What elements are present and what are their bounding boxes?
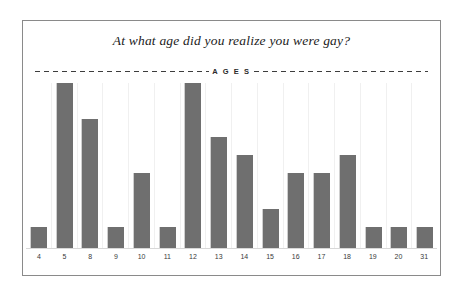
bar-31[interactable]: [416, 227, 433, 249]
bar-column[interactable]: [335, 83, 361, 249]
tick-label-13: 13: [206, 249, 232, 271]
bar-15[interactable]: [262, 209, 279, 249]
tick-label-16: 16: [283, 249, 309, 271]
bar-4[interactable]: [30, 227, 47, 249]
bar-column[interactable]: [103, 83, 129, 249]
tick-label-11: 11: [154, 249, 180, 271]
plot-area: 4589101112131415161718192031: [26, 83, 437, 273]
bar-column[interactable]: [412, 83, 437, 249]
tick-label-18: 18: [334, 249, 360, 271]
dashed-rule-left: [35, 71, 209, 72]
bar-13[interactable]: [210, 137, 227, 249]
bar-18[interactable]: [339, 155, 356, 249]
bar-11[interactable]: [159, 227, 176, 249]
bar-5[interactable]: [56, 83, 73, 249]
tick-label-19: 19: [360, 249, 386, 271]
bar-17[interactable]: [313, 173, 330, 249]
bars-container: [26, 83, 437, 249]
bar-column[interactable]: [155, 83, 181, 249]
tick-label-8: 8: [77, 249, 103, 271]
bar-19[interactable]: [365, 227, 382, 249]
tick-label-5: 5: [52, 249, 78, 271]
bar-chart-figure: At what age did you realize you were gay…: [22, 20, 441, 276]
bar-column[interactable]: [52, 83, 78, 249]
tick-label-4: 4: [26, 249, 52, 271]
tick-label-10: 10: [129, 249, 155, 271]
tick-label-31: 31: [411, 249, 437, 271]
bar-column[interactable]: [232, 83, 258, 249]
bar-column[interactable]: [129, 83, 155, 249]
bar-14[interactable]: [236, 155, 253, 249]
bar-column[interactable]: [78, 83, 104, 249]
bar-10[interactable]: [133, 173, 150, 249]
bar-column[interactable]: [387, 83, 413, 249]
tick-label-12: 12: [180, 249, 206, 271]
bar-12[interactable]: [184, 83, 201, 249]
bar-column[interactable]: [309, 83, 335, 249]
bar-9[interactable]: [107, 227, 124, 249]
bar-16[interactable]: [287, 173, 304, 249]
chart-title: At what age did you realize you were gay…: [23, 33, 440, 49]
tick-label-14: 14: [232, 249, 258, 271]
axis-label-band: A G E S: [35, 65, 428, 77]
x-axis-tick-labels: 4589101112131415161718192031: [26, 248, 437, 271]
tick-label-15: 15: [257, 249, 283, 271]
bar-8[interactable]: [81, 119, 98, 249]
tick-label-9: 9: [103, 249, 129, 271]
bar-column[interactable]: [26, 83, 52, 249]
dashed-rule-right: [254, 71, 428, 72]
x-axis-label: A G E S: [209, 67, 253, 76]
tick-label-17: 17: [309, 249, 335, 271]
bar-column[interactable]: [181, 83, 207, 249]
bar-column[interactable]: [284, 83, 310, 249]
bar-20[interactable]: [390, 227, 407, 249]
bar-column[interactable]: [258, 83, 284, 249]
bar-column[interactable]: [206, 83, 232, 249]
tick-label-20: 20: [386, 249, 412, 271]
bar-column[interactable]: [361, 83, 387, 249]
